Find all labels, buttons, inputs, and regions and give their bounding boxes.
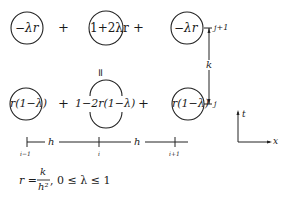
term-top-right: −λr [174, 22, 197, 34]
term-bottom-left: r(1−λ) [10, 98, 47, 109]
label-i-minus-1: i−1 [20, 151, 31, 157]
term-bottom-right: r(1−λ) [172, 98, 209, 109]
plus-sign: + [133, 21, 144, 34]
term-top-center: 1+2λr [90, 22, 129, 34]
arc-bottom-center-top [90, 80, 122, 96]
plus-sign: + [138, 97, 149, 110]
label-j: j [214, 100, 216, 108]
label-j-plus-1: j+1 [214, 24, 228, 32]
label-k: k [205, 60, 213, 70]
formula-condition: , 0 ≤ λ ≤ 1 [50, 175, 110, 186]
label-i-plus-1: i+1 [169, 151, 180, 157]
formula-lhs: r = [19, 175, 37, 186]
axis-label-x: x [273, 137, 278, 146]
arc-bottom-center-bottom [90, 112, 122, 128]
plus-sign: + [58, 97, 69, 110]
label-h: h [48, 137, 54, 147]
plus-sign: + [58, 21, 69, 34]
axis-label-t: t [242, 110, 246, 119]
formula-denominator: h² [38, 182, 48, 192]
term-bottom-center: 1−2r(1−λ) [75, 98, 135, 109]
label-i: i [98, 151, 100, 157]
equals-sign: = [95, 68, 106, 77]
term-top-left: −λr [15, 22, 38, 34]
label-h: h [134, 137, 140, 147]
formula-numerator: k [40, 167, 46, 177]
